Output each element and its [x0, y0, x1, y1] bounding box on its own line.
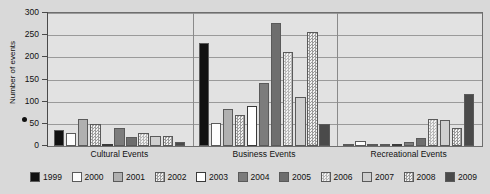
legend-item-2005[interactable]: 2005	[279, 172, 311, 182]
y-axis-tick-label: 200	[0, 52, 39, 60]
bar-2006-cultural-events	[138, 133, 148, 146]
bar-2002-business-events	[235, 115, 245, 146]
bar-2009-business-events	[319, 124, 329, 146]
legend-label: 2001	[126, 172, 145, 182]
bar-2005-business-events	[271, 23, 281, 146]
legend-swatch-icon	[321, 172, 331, 182]
y-axis-tick	[42, 12, 47, 13]
legend-item-1999[interactable]: 1999	[30, 172, 62, 182]
bar-2000-business-events	[211, 123, 221, 146]
legend-item-2000[interactable]: 2000	[72, 172, 104, 182]
bar-2005-cultural-events	[126, 137, 136, 146]
bar-2009-cultural-events	[175, 142, 185, 146]
y-axis-tick-label: 100	[0, 97, 39, 105]
bar-2005-recreational-events	[416, 138, 426, 146]
bar-2008-recreational-events	[452, 128, 462, 146]
legend-swatch-icon	[445, 172, 455, 182]
bar-2004-cultural-events	[114, 128, 124, 146]
y-axis-tick-label: 150	[0, 75, 39, 83]
y-axis-tick	[42, 79, 47, 80]
legend-item-2002[interactable]: 2002	[155, 172, 187, 182]
y-axis-tick-label: 250	[0, 30, 39, 38]
bar-2002-cultural-events	[90, 124, 100, 146]
bar-2000-cultural-events	[66, 133, 76, 146]
legend-item-2009[interactable]: 2009	[445, 172, 477, 182]
category-label: Recreational Events	[336, 149, 481, 159]
legend-label: 2007	[375, 172, 394, 182]
y-axis-tick	[42, 34, 47, 35]
bar-2007-business-events	[295, 97, 305, 146]
legend-swatch-icon	[238, 172, 248, 182]
bar-2006-business-events	[283, 52, 293, 146]
bar-2001-recreational-events	[367, 144, 377, 146]
bar-2009-recreational-events	[464, 94, 474, 146]
legend-item-2004[interactable]: 2004	[238, 172, 270, 182]
bar-2003-cultural-events	[102, 144, 112, 146]
y-axis-tick-label: 50	[0, 119, 39, 127]
legend-label: 2008	[417, 172, 436, 182]
y-axis-tick-label: 0	[0, 141, 39, 149]
bar-2004-recreational-events	[404, 142, 414, 146]
y-axis-tick-label: 300	[0, 8, 39, 16]
bar-2003-business-events	[247, 106, 257, 146]
bar-1999-business-events	[199, 43, 209, 146]
bar-2004-business-events	[259, 83, 269, 146]
y-axis-tick	[42, 145, 47, 146]
y-axis-tick-labels: 050100150200250300	[0, 0, 45, 194]
legend-label: 2002	[168, 172, 187, 182]
legend-item-2001[interactable]: 2001	[113, 172, 145, 182]
legend-label: 2003	[209, 172, 228, 182]
bar-2008-cultural-events	[163, 136, 173, 146]
legend: 1999200020012002200320042005200620072008…	[0, 170, 490, 192]
legend-label: 2004	[251, 172, 270, 182]
bar-2001-business-events	[223, 109, 233, 146]
bar-2000-recreational-events	[355, 141, 365, 146]
y-axis-tick	[42, 123, 47, 124]
plot-area	[47, 12, 483, 147]
legend-swatch-icon	[404, 172, 414, 182]
legend-item-2006[interactable]: 2006	[321, 172, 353, 182]
bar-chart: Number of events 050100150200250300 Cult…	[0, 0, 490, 194]
category-label: Cultural Events	[47, 149, 192, 159]
legend-swatch-icon	[72, 172, 82, 182]
bars-container	[48, 13, 482, 146]
legend-item-2008[interactable]: 2008	[404, 172, 436, 182]
category-label: Business Events	[192, 149, 337, 159]
y-axis-tick	[42, 101, 47, 102]
legend-swatch-icon	[279, 172, 289, 182]
legend-swatch-icon	[196, 172, 206, 182]
legend-item-2003[interactable]: 2003	[196, 172, 228, 182]
y-axis-line	[47, 12, 48, 147]
bar-2008-business-events	[307, 32, 317, 146]
legend-swatch-icon	[30, 172, 40, 182]
legend-swatch-icon	[155, 172, 165, 182]
bar-2007-recreational-events	[440, 120, 450, 146]
bar-1999-cultural-events	[54, 130, 64, 146]
legend-label: 2009	[458, 172, 477, 182]
legend-swatch-icon	[113, 172, 123, 182]
legend-item-2007[interactable]: 2007	[362, 172, 394, 182]
y-axis-tick	[42, 56, 47, 57]
bar-2006-recreational-events	[428, 119, 438, 146]
legend-label: 2000	[85, 172, 104, 182]
legend-label: 1999	[43, 172, 62, 182]
bar-2007-cultural-events	[150, 136, 160, 146]
bar-1999-recreational-events	[343, 144, 353, 146]
bar-2001-cultural-events	[78, 119, 88, 146]
bar-2002-recreational-events	[380, 144, 390, 146]
legend-label: 2005	[292, 172, 311, 182]
legend-label: 2006	[334, 172, 353, 182]
bar-2003-recreational-events	[392, 144, 402, 146]
legend-swatch-icon	[362, 172, 372, 182]
